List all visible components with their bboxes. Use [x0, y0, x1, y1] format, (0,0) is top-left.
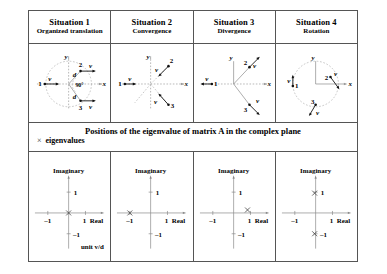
x-axis-label: x	[102, 80, 107, 87]
y-axis-label: y	[64, 53, 69, 60]
point-3-vector-label: v	[154, 98, 158, 105]
table-header-row: Situation 1 Organized translation Situat…	[29, 11, 358, 44]
complex-plane-situation-1: Imaginary Real –1 1 1 –1 unit v/d	[29, 152, 111, 262]
situation-1-subtitle: Organized translation	[29, 27, 110, 36]
y-axis-label: y	[228, 54, 233, 61]
ray-to-point-2	[233, 67, 249, 84]
tick-label-one-real: 1	[330, 216, 334, 223]
convergence-diagram: x y 1 v 2 v 3 v	[111, 47, 192, 119]
imaginary-axis-arrow	[232, 175, 234, 178]
ray-to-point-3	[233, 84, 249, 105]
point-2-label: 2	[243, 59, 247, 66]
point-3-label: 3	[243, 105, 247, 112]
tick-label-one-imag: 1	[238, 189, 242, 196]
complex-plane-3-chart: Imaginary Real –1 1 1 –1	[194, 157, 275, 257]
vector-panel-rotation: x y 1 v 2 v 3 v	[275, 43, 357, 122]
point-2-vector-label: v	[89, 62, 93, 69]
point-1-label: 1	[214, 80, 218, 87]
complex-plane-situation-3: Imaginary Real –1 1 1 –1	[193, 152, 275, 262]
header-cell-situation-4: Situation 4 Rotation	[275, 11, 357, 44]
complex-plane-row: Imaginary Real –1 1 1 –1 unit v/d	[29, 152, 358, 262]
situation-4-title: Situation 4	[276, 17, 357, 27]
y-axis-label: y	[310, 54, 315, 61]
imaginary-axis-label: Imaginary	[135, 167, 167, 174]
y-axis-label: y	[146, 53, 151, 60]
vector-diagram-row: x y d d 90° 1 v 2	[29, 43, 358, 122]
situation-2-subtitle: Convergence	[111, 27, 192, 36]
tick-label-one-imag: 1	[74, 189, 78, 196]
rotation-diagram: x y 1 v 2 v 3 v	[276, 47, 357, 119]
imaginary-axis-arrow	[68, 175, 70, 178]
caption-cell: Positions of the eigenvalue of matrix A …	[29, 122, 358, 151]
point-3-vector	[249, 105, 258, 114]
caption-row: Positions of the eigenvalue of matrix A …	[29, 122, 358, 151]
point-1-label: 1	[38, 80, 42, 87]
point-1-vector-label: v	[129, 75, 133, 82]
tick-label-neg-one-imag: –1	[154, 230, 162, 237]
eigenvalue-marker-pos-one	[245, 207, 250, 212]
vector-panel-organized-translation: x y d d 90° 1 v 2	[29, 43, 111, 122]
header-cell-situation-2: Situation 2 Convergence	[111, 11, 193, 44]
ray-lower-left	[135, 84, 151, 103]
tick-label-one-real: 1	[247, 216, 251, 223]
vector-panel-divergence: x y 1 v 2 v 3 v	[193, 43, 275, 122]
complex-plane-4-chart: Imaginary Real –1 1 1 –1	[276, 157, 357, 257]
complex-plane-situation-2: Imaginary Real –1 1 1 –1	[111, 152, 193, 262]
header-cell-situation-1: Situation 1 Organized translation	[29, 11, 111, 44]
point-2-vector-arrow	[92, 69, 95, 72]
point-1-vector-arrow	[133, 82, 136, 85]
imaginary-axis-label: Imaginary	[300, 167, 332, 174]
x-axis-label: x	[184, 80, 189, 87]
point-2-label: 2	[79, 61, 83, 68]
point-1-vector-arrow	[56, 82, 59, 85]
situation-4-subtitle: Rotation	[276, 27, 357, 36]
point-3-label: 3	[79, 104, 83, 111]
real-axis-arrow	[265, 211, 268, 213]
situations-table: Situation 1 Organized translation Situat…	[28, 10, 358, 262]
x-axis-arrow	[344, 83, 347, 85]
tick-label-neg-one-real: –1	[43, 216, 51, 223]
situation-3-title: Situation 3	[194, 17, 275, 27]
situation-3-subtitle: Divergence	[194, 27, 275, 36]
imaginary-axis-arrow	[150, 175, 152, 178]
point-2-vector-label: v	[252, 62, 256, 69]
eigenvalue-cross-icon: ×	[37, 136, 46, 145]
tick-label-neg-one-real: –1	[208, 216, 216, 223]
imaginary-axis-label: Imaginary	[218, 167, 250, 174]
real-axis-label: Real	[254, 216, 268, 223]
tick-label-neg-one-imag: –1	[72, 230, 80, 237]
real-axis-label: Real	[172, 216, 186, 223]
point-1-vector-label: v	[205, 75, 209, 82]
tick-label-one-real: 1	[165, 216, 169, 223]
point-3-vector-arrow	[309, 112, 312, 115]
organized-translation-diagram: x y d d 90° 1 v 2	[29, 47, 110, 119]
tick-label-one-imag: 1	[321, 189, 325, 196]
tick-label-one-imag: 1	[156, 189, 160, 196]
tick-label-neg-one-real: –1	[290, 216, 298, 223]
point-1-vector-arrow	[200, 82, 203, 85]
real-axis-label: Real	[90, 216, 104, 223]
unit-annotation: unit v/d	[81, 242, 104, 249]
distance-label-d-lower: d	[73, 93, 77, 100]
point-3-vector-label: v	[89, 103, 93, 110]
real-axis-arrow	[101, 211, 104, 213]
angle-label-90: 90°	[75, 82, 84, 88]
point-1-label: 1	[118, 80, 122, 87]
x-axis-label: x	[347, 80, 352, 87]
real-axis-arrow	[348, 211, 351, 213]
point-2-vector	[330, 77, 338, 88]
complex-plane-2-chart: Imaginary Real –1 1 1 –1	[111, 157, 192, 257]
situation-2-title: Situation 2	[111, 17, 192, 27]
point-1-vector-arrow	[291, 74, 294, 77]
x-axis-label: x	[266, 80, 271, 87]
caption-wrapper: Positions of the eigenvalue of matrix A …	[29, 124, 357, 150]
point-3-vector-label: v	[255, 97, 259, 104]
tick-label-one-real: 1	[83, 216, 87, 223]
complex-plane-situation-4: Imaginary Real –1 1 1 –1	[275, 152, 357, 262]
point-1-vector-label: v	[48, 75, 52, 82]
point-2-label: 2	[170, 57, 174, 64]
divergence-diagram: x y 1 v 2 v 3 v	[194, 47, 275, 119]
point-1-vector-label: v	[287, 77, 291, 84]
tick-label-neg-one-real: –1	[126, 216, 134, 223]
point-2-vector	[160, 66, 169, 75]
